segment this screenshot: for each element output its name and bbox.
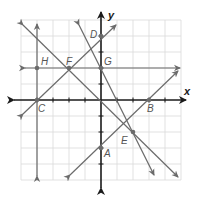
point-G bbox=[99, 66, 104, 71]
point-D bbox=[99, 34, 104, 39]
label-H: H bbox=[41, 56, 49, 67]
label-E: E bbox=[121, 135, 128, 146]
point-C bbox=[35, 98, 40, 103]
point-H bbox=[35, 66, 40, 71]
x-axis-label: x bbox=[183, 85, 191, 97]
label-G: G bbox=[104, 56, 112, 67]
label-F: F bbox=[66, 56, 73, 67]
point-B bbox=[147, 98, 152, 103]
point-E bbox=[131, 130, 136, 135]
points bbox=[35, 34, 152, 151]
coordinate-plane: A B C D E F G H x y bbox=[0, 0, 203, 201]
label-D: D bbox=[90, 29, 97, 40]
label-A: A bbox=[103, 148, 111, 159]
label-C: C bbox=[38, 103, 46, 114]
point-A bbox=[99, 146, 104, 151]
y-axis-label: y bbox=[107, 9, 115, 21]
label-B: B bbox=[147, 103, 154, 114]
